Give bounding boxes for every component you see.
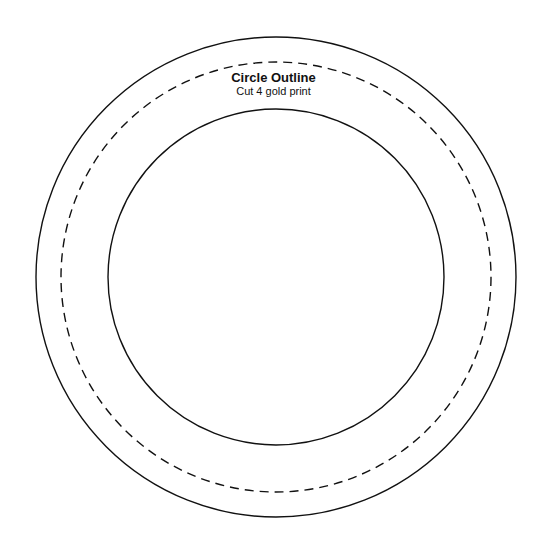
inner-cut-line — [108, 109, 444, 445]
pattern-title: Circle Outline — [3, 70, 541, 85]
dashed-seam-line — [61, 62, 491, 492]
pattern-instructions: Cut 4 gold print — [3, 85, 541, 97]
